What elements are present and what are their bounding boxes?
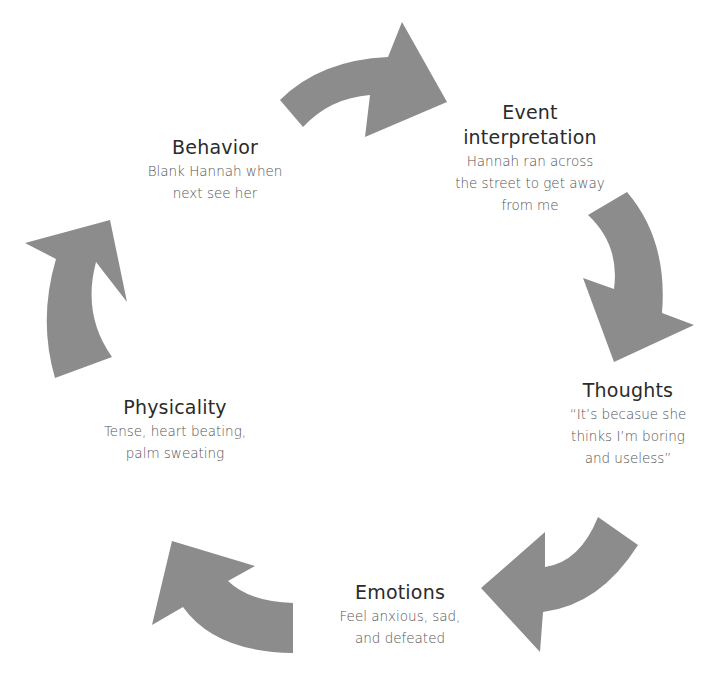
node-desc-line: and useless”	[548, 447, 708, 469]
arrow-emotions-to-physicality	[152, 541, 293, 653]
node-desc-line: Blank Hannah when	[125, 160, 305, 182]
node-desc-line: from me	[420, 194, 640, 216]
node-event-interpretation: Event interpretation Hannah ran across t…	[420, 100, 640, 216]
node-desc-line: thinks I’m boring	[548, 425, 708, 447]
node-desc-line: “It’s becasue she	[548, 403, 708, 425]
arrow-thoughts-to-emotions	[481, 517, 638, 652]
node-desc-line: and defeated	[310, 627, 490, 649]
node-title: Event	[420, 100, 640, 125]
node-desc-line: next see her	[125, 182, 305, 204]
arrow-physicality-to-behavior	[25, 220, 127, 378]
node-behavior: Behavior Blank Hannah when next see her	[125, 135, 305, 204]
node-title: Thoughts	[548, 378, 708, 403]
node-title: interpretation	[420, 125, 640, 150]
node-desc-line: the street to get away	[420, 172, 640, 194]
node-title: Physicality	[75, 395, 275, 420]
node-desc-line: palm sweating	[75, 442, 275, 464]
arrow-event-to-thoughts	[583, 192, 694, 362]
node-title: Emotions	[310, 580, 490, 605]
node-desc-line: Tense, heart beating,	[75, 420, 275, 442]
node-desc-line: Hannah ran across	[420, 150, 640, 172]
node-title: Behavior	[125, 135, 305, 160]
node-emotions: Emotions Feel anxious, sad, and defeated	[310, 580, 490, 649]
node-thoughts: Thoughts “It’s becasue she thinks I’m bo…	[548, 378, 708, 469]
node-desc-line: Feel anxious, sad,	[310, 605, 490, 627]
node-physicality: Physicality Tense, heart beating, palm s…	[75, 395, 275, 464]
